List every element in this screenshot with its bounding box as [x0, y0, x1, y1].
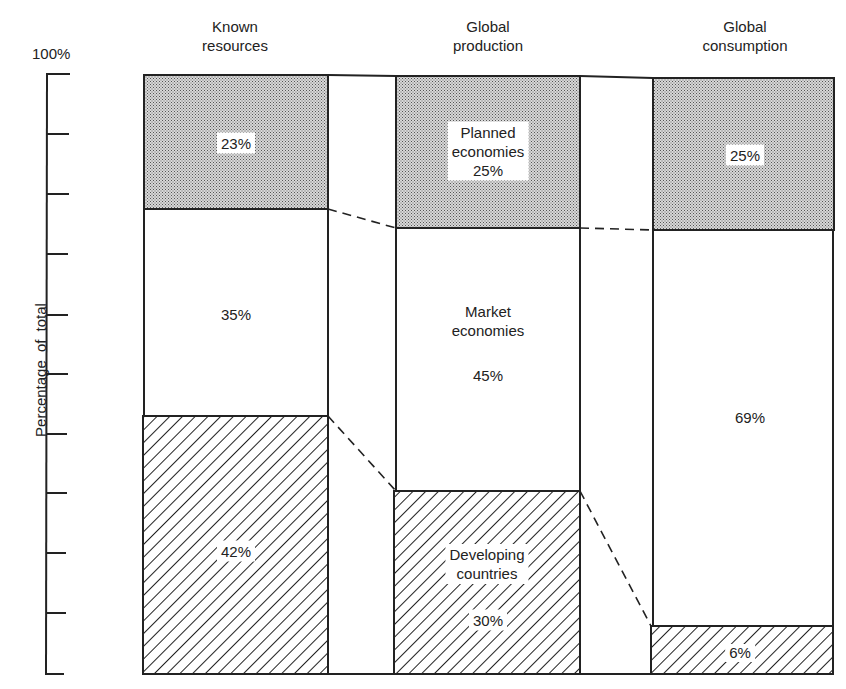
label-production-planned: Planned economies 25% [448, 122, 529, 181]
label-known-planned: 23% [217, 133, 255, 154]
label-consumption-planned: 25% [726, 145, 764, 166]
bar-known-resources [143, 75, 328, 674]
label-known-market: 35% [221, 305, 251, 324]
label-production-developing-name: Developing countries [445, 544, 528, 584]
segment-name: Developing [449, 545, 524, 564]
segment-name: economies [452, 321, 525, 340]
segment-name: Market [452, 302, 525, 321]
segment-name: economies [452, 142, 525, 161]
y-axis [46, 73, 70, 675]
segment-market [653, 230, 833, 626]
segment-name: countries [449, 564, 524, 583]
label-production-developing-value: 30% [469, 610, 507, 631]
label-consumption-market: 69% [735, 408, 765, 427]
bar-global-consumption [651, 78, 834, 674]
label-consumption-developing: 6% [725, 644, 755, 662]
chart-canvas [0, 0, 846, 689]
label-production-market: Market economies 45% [452, 302, 525, 385]
spacer [452, 340, 525, 366]
segment-value: 45% [452, 366, 525, 385]
segment-name: Planned [452, 123, 525, 142]
segment-value: 25% [452, 161, 525, 180]
label-known-developing: 42% [217, 541, 255, 562]
